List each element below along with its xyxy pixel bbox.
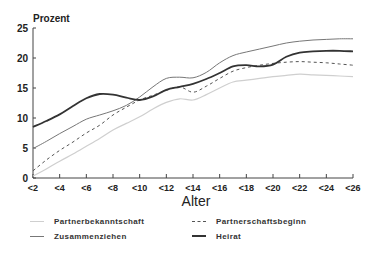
x-tick-label: <10 [132,183,147,193]
legend-item-heirat: Heirat [192,229,241,243]
thin-line-icon [30,236,44,237]
legend-label: Partnerschaftsbeginn [216,217,306,226]
legend-item-partnerbekanntschaft: Partnerbekanntschaft [30,214,144,228]
y-tick-label: 0 [22,173,28,184]
legend-item-partnerschaftsbeginn: Partnerschaftsbeginn [192,214,306,228]
legend-label: Heirat [216,232,241,241]
legend-label: Partnerbekanntschaft [54,217,144,226]
legend-item-zusammenziehen: Zusammenziehen [30,229,127,243]
x-tick-label: <12 [159,183,174,193]
legend: Partnerbekanntschaft Partnerschaftsbegin… [0,214,376,254]
x-tick-label: <2 [28,183,38,193]
x-tick-label: <16 [212,183,227,193]
x-tick-label: <18 [239,183,254,193]
line-chart: Prozent 0510152025 <2<4<6<8<10<12<14<16<… [0,0,376,214]
plot-lines [33,39,353,176]
x-tick-label: <26 [345,183,360,193]
x-tick-label: <20 [265,183,280,193]
series-line-heirat [33,51,353,127]
series-line-partnerbekanntschaft [33,74,353,176]
y-axis: 0510152025 [17,23,36,184]
y-tick-label: 25 [17,23,29,34]
y-tick-label: 10 [17,113,29,124]
x-tick-label: <24 [319,183,334,193]
x-tick-label: <8 [108,183,118,193]
x-tick-label: <4 [55,183,65,193]
y-tick-label: 15 [17,83,29,94]
y-tick-label: 5 [22,143,28,154]
x-tick-label: <6 [81,183,91,193]
x-tick-label: <22 [292,183,307,193]
y-axis-label: Prozent [33,13,70,24]
x-axis: <2<4<6<8<10<12<14<16<18<20<22<24<26 [28,174,361,193]
thin-light-line-icon [30,221,44,222]
legend-label: Zusammenziehen [54,232,127,241]
dashed-line-icon [192,221,206,222]
y-tick-label: 20 [17,53,29,64]
thick-line-icon [192,235,206,237]
x-tick-label: <14 [185,183,200,193]
x-axis-label: Alter [182,193,211,209]
series-line-zusammenziehen [33,39,353,149]
